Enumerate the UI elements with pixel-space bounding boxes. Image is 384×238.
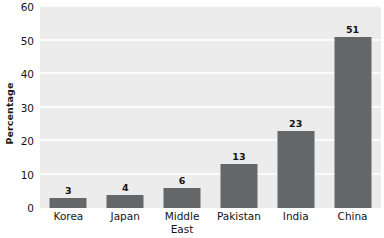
bar-group[interactable]: 3 [40, 7, 97, 208]
x-axis-label-korea: Korea [40, 210, 97, 223]
bar[interactable] [334, 37, 371, 208]
x-axis-label-line: Middle [165, 210, 200, 222]
x-axis-label-middle-east: MiddleEast [154, 210, 211, 235]
y-axis-tick-60: 60 [0, 2, 34, 12]
x-axis-label-line: Pakistan [217, 210, 261, 222]
bar-value-label: 3 [65, 186, 72, 196]
bar[interactable] [50, 198, 87, 208]
x-axis-category-labels: KoreaJapanMiddleEastPakistanIndiaChina [40, 210, 381, 238]
x-axis-label-japan: Japan [97, 210, 154, 223]
bar-group[interactable]: 51 [324, 7, 381, 208]
x-axis-label-line: India [283, 210, 309, 222]
bar-chart: Percentage 0102030405060 346132351 Korea… [0, 0, 384, 238]
bar-group[interactable]: 4 [97, 7, 154, 208]
x-axis-label-india: India [267, 210, 324, 223]
y-axis-tick-30: 30 [0, 103, 34, 113]
bars-layer: 346132351 [40, 7, 381, 208]
bar[interactable] [220, 164, 257, 208]
bar-value-label: 4 [122, 183, 129, 193]
x-axis-label-china: China [324, 210, 381, 223]
plot-area: 346132351 [40, 7, 381, 208]
bar[interactable] [277, 131, 314, 208]
x-axis-label-line: China [338, 210, 368, 222]
y-axis-tick-0: 0 [0, 203, 34, 213]
y-axis-tick-40: 40 [0, 69, 34, 79]
bar-value-label: 13 [232, 152, 245, 162]
bar-group[interactable]: 13 [211, 7, 268, 208]
x-axis-label-line: Korea [54, 210, 84, 222]
bar-group[interactable]: 6 [154, 7, 211, 208]
bar[interactable] [164, 188, 201, 208]
bar-value-label: 6 [179, 176, 186, 186]
x-axis-label-line: Japan [111, 210, 140, 222]
y-axis-tick-50: 50 [0, 36, 34, 46]
bar[interactable] [107, 195, 144, 208]
y-axis-tick-20: 20 [0, 136, 34, 146]
y-axis-tick-10: 10 [0, 170, 34, 180]
y-axis-tick-labels: 0102030405060 [0, 0, 38, 213]
bar-value-label: 23 [289, 119, 302, 129]
bar-group[interactable]: 23 [267, 7, 324, 208]
x-axis-label-line: East [154, 223, 211, 236]
bar-value-label: 51 [346, 25, 359, 35]
x-axis-label-pakistan: Pakistan [211, 210, 268, 223]
